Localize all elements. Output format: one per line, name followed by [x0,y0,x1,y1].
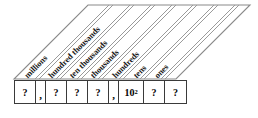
label-millions: millions [22,53,49,80]
place-value-chart: millionshundred thousandsten thousandsth… [0,0,258,118]
label-ones: ones [152,62,170,80]
cell-ones[interactable]: ? [165,81,186,103]
label-tens: tens [131,63,148,80]
digit-row: ?,???,102?? [14,80,187,104]
cell-hundreds-base: 10 [124,87,134,98]
cell-hundreds[interactable]: 102 [119,81,144,103]
cell-ten-thousands[interactable]: ? [67,81,88,103]
cell-tens[interactable]: ? [144,81,165,103]
cell-thousands[interactable]: ? [88,81,109,103]
cell-millions[interactable]: ? [15,81,36,103]
separator-2: , [109,81,119,103]
separator-1: , [36,81,46,103]
cell-hundred-thousands[interactable]: ? [46,81,67,103]
